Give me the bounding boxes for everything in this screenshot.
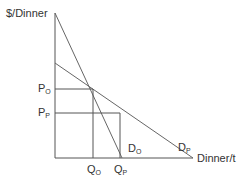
- curve-label-do: DO: [128, 142, 141, 158]
- price-label-po: PO: [38, 82, 51, 98]
- curve-label-dp: DP: [178, 141, 191, 157]
- x-axis-label: Dinner/t: [197, 152, 236, 164]
- price-label-pp: PP: [38, 106, 50, 122]
- quantity-label-qp: QP: [114, 163, 127, 179]
- y-axis-label: $/Dinner: [6, 7, 48, 19]
- demand-curve-dp: [55, 63, 193, 158]
- quantity-label-qo: QO: [87, 163, 101, 179]
